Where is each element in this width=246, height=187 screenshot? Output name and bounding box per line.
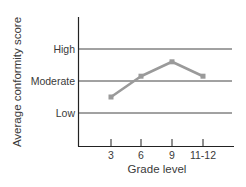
- x-tick-label-3: 3: [108, 149, 114, 161]
- data-point-marker: [170, 59, 175, 64]
- y-tick-label-moderate: Moderate: [31, 75, 76, 87]
- conformity-line-chart: Average conformity score High Moderate L…: [0, 0, 246, 187]
- x-tick-label-11-12: 11-12: [190, 149, 216, 161]
- y-tick-label-low: Low: [56, 107, 76, 119]
- x-tick-label-9: 9: [169, 149, 175, 161]
- data-point-marker: [201, 74, 206, 79]
- x-tick-label-6: 6: [138, 149, 144, 161]
- x-axis-label: Grade level: [128, 163, 187, 175]
- data-point-marker: [139, 74, 144, 79]
- data-point-marker: [109, 95, 114, 100]
- series-conformity: [109, 59, 206, 99]
- y-tick-label-high: High: [53, 43, 75, 55]
- y-axis-label: Average conformity score: [11, 17, 23, 147]
- series-line: [111, 62, 203, 97]
